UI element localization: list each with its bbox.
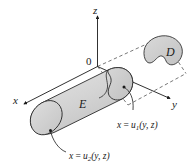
u1-lhs: x [116,120,122,130]
svg-text:x=u1(y, z): x=u1(y, z) [116,120,158,131]
dashed-line-left [128,74,186,106]
region-d-label: D [165,45,175,59]
u2-equals: = [75,151,80,161]
solid-e-cap-far [108,68,133,100]
leader-line-u2 [51,131,67,153]
u1-args: (y, z) [139,120,157,131]
leader-dot-u2 [49,129,52,132]
z-axis-label: z [92,4,98,16]
u1-equals: = [123,120,128,130]
surface-label-u1: x=u1(y, z) [116,120,158,131]
region-d-shape [144,36,182,65]
diagram-canvas: z y x 0 E D x=u1(y, z) x=u2(y, z) [0,0,195,167]
svg-text:x=u2(y, z): x=u2(y, z) [68,151,110,162]
x-axis-label: x [12,94,18,106]
solid-e-label: E [78,97,87,111]
leader-dot-u1 [123,86,126,89]
y-axis-label: y [171,98,177,110]
figure-container: z y x 0 E D x=u1(y, z) x=u2(y, z) [0,0,195,167]
u2-lhs: x [68,151,74,161]
surface-label-u2: x=u2(y, z) [68,151,110,162]
origin-label: 0 [86,55,92,67]
u2-args: (y, z) [91,151,109,162]
region-d-group [144,36,182,65]
